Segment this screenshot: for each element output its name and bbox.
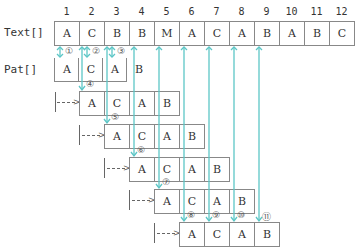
step-4: ④ [86, 79, 94, 89]
step-8: ⑧ [187, 210, 195, 220]
step-7: ⑦ [162, 177, 170, 187]
step-3: ③ [117, 46, 125, 56]
comparison-arrows [0, 0, 357, 247]
step-1: ① [65, 46, 73, 56]
step-6: ⑥ [137, 145, 145, 155]
step-2: ② [92, 46, 100, 56]
step-9: ⑨ [212, 210, 220, 220]
step-11: ⑪ [262, 210, 271, 223]
step-10: ⑩ [237, 210, 245, 220]
step-5: ⑤ [111, 112, 119, 122]
